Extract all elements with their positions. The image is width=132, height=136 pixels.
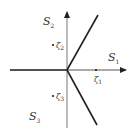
- upper-ray: [67, 15, 98, 70]
- region-label-s2: S2: [43, 15, 55, 29]
- sector-diagram: S2 S1 S3 ζ2 ζ1 ζ3: [0, 0, 132, 136]
- point-zeta3: [52, 95, 54, 97]
- point-label-zeta1: ζ1: [94, 75, 102, 85]
- region-label-s3: S3: [29, 110, 41, 124]
- point-zeta2: [52, 44, 54, 46]
- point-label-zeta2: ζ2: [56, 41, 64, 51]
- lower-ray: [67, 70, 97, 125]
- point-label-zeta3: ζ3: [56, 92, 64, 102]
- region-label-s1: S1: [108, 51, 119, 65]
- point-zeta1: [95, 69, 97, 71]
